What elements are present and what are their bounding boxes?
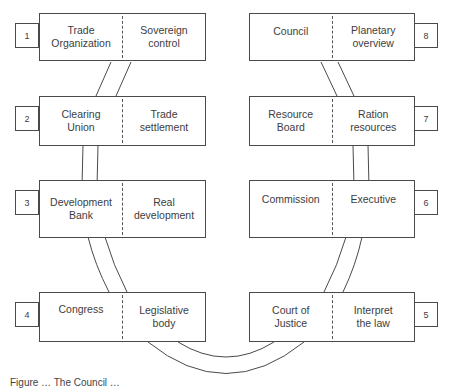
institution-label: Council (250, 14, 332, 60)
function-label: Ration resources (333, 97, 415, 145)
function-label: Interpret the law (333, 293, 415, 341)
figure-caption: Figure … The Council … (10, 377, 120, 388)
institution-label: Trade Organization (40, 14, 122, 60)
function-label: Sovereign control (123, 14, 205, 60)
node-resource-board: Resource Board Ration resources (249, 96, 415, 146)
number-tab-4: 4 (15, 302, 39, 327)
node-congress: Congress Legislative body (39, 292, 206, 342)
institution-label: Resource Board (250, 97, 332, 145)
number-tab-5: 5 (414, 302, 438, 327)
node-council: Council Planetary overview (249, 13, 415, 61)
node-clearing-union: Clearing Union Trade settlement (39, 96, 206, 146)
institution-label: Clearing Union (40, 97, 122, 145)
function-label: Trade settlement (123, 97, 205, 145)
number-tab-2: 2 (15, 106, 39, 131)
number-tab-3: 3 (15, 190, 39, 215)
node-trade-organization: Trade Organization Sovereign control (39, 13, 206, 61)
number-tab-6: 6 (414, 190, 438, 215)
number-tab-7: 7 (414, 106, 438, 131)
institution-label: Congress (40, 293, 122, 341)
number-tab-1: 1 (15, 23, 39, 48)
institution-label: Court of Justice (250, 293, 332, 341)
node-commission: Commission Executive (249, 180, 415, 238)
institution-label: Commission (250, 181, 332, 237)
institution-label: Development Bank (40, 181, 122, 237)
function-label: Real development (123, 181, 205, 237)
node-development-bank: Development Bank Real development (39, 180, 206, 238)
function-label: Planetary overview (333, 14, 415, 60)
function-label: Executive (333, 181, 415, 237)
number-tab-8: 8 (414, 23, 438, 48)
function-label: Legislative body (123, 293, 205, 341)
node-court-of-justice: Court of Justice Interpret the law (249, 292, 415, 342)
